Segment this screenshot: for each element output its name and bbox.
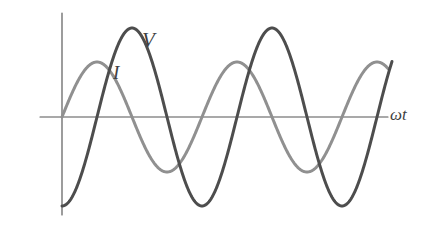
waveform-figure: V I ωt [0,0,426,230]
x-axis-label: ωt [390,106,407,123]
current-curve-label: I [113,63,119,82]
waveform-plot-area [0,0,426,230]
voltage-curve-label: V [142,30,155,51]
